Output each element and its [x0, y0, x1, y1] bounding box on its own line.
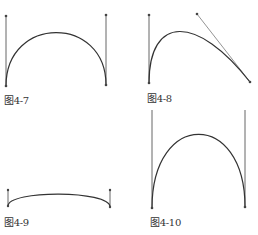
anchor-point — [249, 81, 252, 84]
control-point — [109, 189, 111, 191]
bezier-curve — [149, 31, 250, 83]
figure-4-9-graphic — [7, 189, 111, 208]
control-point — [148, 14, 151, 17]
bezier-diagrams — [0, 0, 258, 235]
anchor-point — [7, 205, 9, 207]
anchor-point — [109, 206, 111, 208]
bezier-curve — [6, 33, 106, 86]
control-point — [5, 15, 8, 18]
figure-4-10-graphic — [151, 110, 247, 209]
anchor-point — [148, 82, 151, 85]
figure-caption: 图4-10 — [150, 214, 181, 229]
control-point — [7, 189, 9, 191]
figure-caption: 图4-9 — [4, 214, 29, 229]
figure-caption: 图4-7 — [4, 92, 29, 107]
anchor-point — [5, 85, 8, 88]
figure-4-7-graphic — [5, 14, 108, 88]
bezier-curve — [8, 194, 110, 207]
control-point — [196, 13, 199, 16]
figure-4-8-graphic — [148, 13, 252, 85]
anchor-point — [105, 84, 108, 87]
bezier-curve — [152, 134, 245, 208]
anchor-point — [244, 206, 247, 209]
control-point — [105, 14, 108, 17]
anchor-point — [151, 207, 154, 210]
figure-caption: 图4-8 — [147, 90, 172, 105]
